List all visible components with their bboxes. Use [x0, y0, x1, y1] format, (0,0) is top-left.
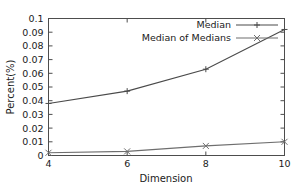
y-tick-label: 0.04	[22, 95, 43, 106]
y-tick-label: 0.05	[22, 81, 43, 92]
y-tick-label: 0.03	[22, 109, 43, 120]
x-tick-label: 8	[203, 158, 209, 169]
x-tick-label: 6	[124, 158, 130, 169]
legend-label-1: Median	[196, 19, 231, 30]
y-tick-label: 0.01	[22, 136, 43, 147]
y-tick-label: 0.06	[22, 68, 43, 79]
chart-canvas: 00.010.020.030.040.050.060.070.080.090.1…	[0, 0, 306, 189]
y-tick-label: 0.07	[22, 54, 43, 65]
y-tick-label: 0.02	[22, 123, 43, 134]
line-chart: 00.010.020.030.040.050.060.070.080.090.1…	[0, 0, 306, 189]
y-axis-title: Percent(%)	[5, 59, 16, 114]
legend-label-2: Median of Medians	[142, 32, 231, 43]
y-tick-label: 0.08	[22, 40, 43, 51]
x-tick-label: 4	[45, 158, 51, 169]
y-tick-label: 0.09	[22, 27, 43, 38]
x-tick-label: 10	[278, 158, 290, 169]
y-tick-label: 0.1	[28, 13, 43, 24]
y-tick-label: 0	[37, 150, 43, 161]
x-axis-title: Dimension	[139, 173, 192, 184]
